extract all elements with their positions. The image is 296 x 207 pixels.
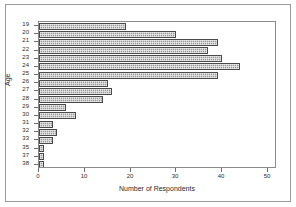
plot-area <box>38 21 276 168</box>
y-axis-tick <box>34 82 38 83</box>
bar <box>39 129 57 136</box>
bar-row <box>39 104 275 111</box>
y-axis-tick-label: 20 <box>22 29 29 36</box>
y-axis-tick <box>34 148 38 149</box>
y-axis-tick-label: 30 <box>22 111 29 118</box>
bar-row <box>39 137 275 144</box>
y-axis-tick-label: 31 <box>22 119 29 126</box>
y-axis-tick <box>34 156 38 157</box>
x-axis-tick-label: 0 <box>36 173 39 179</box>
bar-row <box>39 153 275 160</box>
y-axis-tick <box>34 50 38 51</box>
y-axis-tick-label: 27 <box>22 86 29 93</box>
bar <box>39 23 126 30</box>
bar-row <box>39 96 275 103</box>
bar-series <box>39 22 275 167</box>
bar <box>39 112 76 119</box>
y-axis-tick-label: 22 <box>22 46 29 53</box>
y-axis-tick-label: 32 <box>22 127 29 134</box>
bar-row <box>39 121 275 128</box>
y-axis-tick-label: 33 <box>22 135 29 142</box>
bar-row <box>39 23 275 30</box>
y-axis-tick <box>34 41 38 42</box>
bar <box>39 80 108 87</box>
bar <box>39 88 112 95</box>
bar-row <box>39 129 275 136</box>
y-axis-tick <box>34 164 38 165</box>
y-axis-tick <box>34 90 38 91</box>
bar <box>39 39 218 46</box>
bar-row <box>39 39 275 46</box>
y-axis-tick <box>34 107 38 108</box>
x-axis-tick <box>175 168 176 172</box>
y-axis-tick-label: 38 <box>22 160 29 167</box>
x-axis-tick <box>267 168 268 172</box>
x-axis-tick-label: 50 <box>264 173 271 179</box>
bar-row <box>39 72 275 79</box>
x-axis-tick-labels: 01020304050 <box>0 173 296 183</box>
y-axis-tick-label: 35 <box>22 144 29 151</box>
bar <box>39 145 44 152</box>
bar-row <box>39 47 275 54</box>
y-axis-tick-label: 37 <box>22 152 29 159</box>
y-axis-tick <box>34 99 38 100</box>
y-axis-tick-label: 26 <box>22 78 29 85</box>
bar-row <box>39 145 275 152</box>
bar <box>39 31 176 38</box>
y-axis-tick <box>34 74 38 75</box>
x-axis-tick <box>38 168 39 172</box>
bar-row <box>39 55 275 62</box>
y-axis-tick-label: 21 <box>22 37 29 44</box>
bar-row <box>39 112 275 119</box>
bar <box>39 55 222 62</box>
bar-row <box>39 161 275 168</box>
y-axis-tick-label: 25 <box>22 70 29 77</box>
y-axis-tick <box>34 25 38 26</box>
bar-row <box>39 31 275 38</box>
y-axis-tick-label: 29 <box>22 103 29 110</box>
y-axis-tick-labels: 192021222324252627282930313233353738 <box>0 21 34 168</box>
y-axis-tick <box>34 115 38 116</box>
x-axis-tick-label: 20 <box>127 173 134 179</box>
y-axis-title: Age <box>4 74 11 86</box>
y-axis-tick <box>34 131 38 132</box>
x-axis-tick <box>130 168 131 172</box>
bar-row <box>39 88 275 95</box>
bar <box>39 72 218 79</box>
bar-row <box>39 63 275 70</box>
x-axis-tick <box>221 168 222 172</box>
x-axis-tick-label: 40 <box>218 173 225 179</box>
bar <box>39 161 44 168</box>
bar <box>39 137 53 144</box>
y-axis-tick-label: 28 <box>22 95 29 102</box>
y-axis-tick <box>34 123 38 124</box>
bar-row <box>39 80 275 87</box>
x-axis-tick-label: 30 <box>172 173 179 179</box>
chart-figure: 192021222324252627282930313233353738 010… <box>0 0 296 207</box>
y-axis-tick-label: 23 <box>22 54 29 61</box>
bar <box>39 153 44 160</box>
y-axis-tick-label: 19 <box>22 21 29 28</box>
bar <box>39 121 53 128</box>
y-axis-tick <box>34 33 38 34</box>
bar <box>39 63 240 70</box>
bar <box>39 47 208 54</box>
y-axis-tick <box>34 58 38 59</box>
x-axis-title: Number of Respondents <box>38 185 276 192</box>
y-axis-tick-label: 24 <box>22 62 29 69</box>
bar <box>39 96 103 103</box>
bar <box>39 104 66 111</box>
y-axis-tick <box>34 139 38 140</box>
x-axis-tick-label: 10 <box>81 173 88 179</box>
x-axis-tick <box>84 168 85 172</box>
y-axis-tick <box>34 66 38 67</box>
